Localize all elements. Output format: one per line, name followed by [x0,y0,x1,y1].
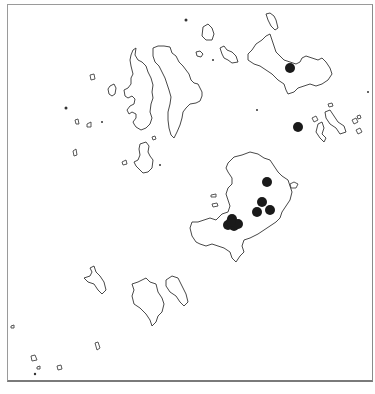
speck [65,107,68,110]
site-marker [262,177,272,187]
site-marker [265,205,275,215]
site-marker [226,217,236,227]
islet-east-1 [325,110,346,134]
islet-south-1 [95,342,100,350]
islet-west-4 [87,122,91,127]
islet-north-east-1 [266,13,278,30]
site-marker [293,122,303,132]
speck [101,121,103,123]
island-north-central [153,46,202,138]
site-markers [223,63,303,231]
speck [185,19,188,22]
islet-east-5 [357,115,361,119]
islet-west-3 [75,119,79,124]
islet-south-2 [31,355,37,361]
islet-west-6 [122,160,127,165]
islet-west-2 [90,74,95,80]
speck [159,164,161,166]
island-central [190,152,292,262]
island-south-east [166,276,188,306]
islet-east-7 [328,103,333,107]
island-south-west-2 [84,266,106,294]
islet-north-2 [220,46,238,63]
island-map [0,0,375,394]
islet-east-3 [312,116,318,122]
islet-central-1 [211,194,216,197]
speck [256,109,258,111]
islet-north-1 [202,24,214,40]
speck [34,373,36,375]
islet-east-2 [316,122,326,142]
speck [212,59,214,61]
islet-central-3 [290,182,298,188]
site-marker [252,207,262,217]
islet-west-7 [152,136,156,140]
site-marker [285,63,295,73]
island-west-peninsula [124,48,153,130]
site-marker [257,197,267,207]
island-south-west [134,142,153,173]
islet-west-5 [73,149,77,156]
islet-south-3 [57,365,62,370]
islet-east-4 [352,118,358,124]
islet-east-6 [356,128,362,134]
island-south-central [132,278,164,326]
islet-central-2 [212,203,218,207]
islet-north-3 [196,51,203,57]
speck [367,91,369,93]
islet-west-1 [108,84,116,96]
islet-south-4 [37,366,40,369]
islet-south-5 [11,325,14,328]
